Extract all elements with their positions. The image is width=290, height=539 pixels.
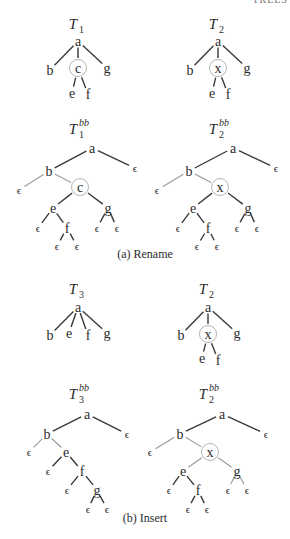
tree-edge [60, 234, 64, 241]
tree-edge [53, 417, 81, 431]
tree-node-c: c [77, 180, 83, 195]
tree-edge [198, 193, 212, 204]
figure-section-insert: T3abefgT2abxgefT3bbaϵbϵeϵfϵgϵϵT2bbaϵbϵxe… [27, 281, 269, 525]
tree-title: T [209, 16, 219, 32]
tree-node-b: b [47, 328, 54, 343]
epsilon-leaf-node: ϵ [264, 428, 269, 440]
tree-edge [53, 457, 62, 467]
tree-node-e: e [63, 445, 69, 460]
tree-edge [42, 213, 49, 223]
tree-edge [213, 311, 232, 328]
tree-node-g: g [234, 326, 241, 341]
tree-title-superscript: bb [219, 117, 229, 128]
tree-node-x: x [215, 61, 222, 76]
epsilon-leaf-node: ϵ [65, 484, 70, 496]
tree-edge [71, 476, 78, 485]
epsilon-leaf-node: ϵ [46, 465, 51, 477]
tree-node-a: a [89, 141, 96, 156]
epsilon-leaf-node: ϵ [186, 503, 191, 515]
tree-node-e: e [190, 201, 196, 216]
tree-edge [58, 193, 72, 204]
tree-node-a: a [215, 34, 222, 49]
tree-node-f: f [86, 87, 91, 102]
tree-edge [201, 496, 204, 503]
tree-title: T [69, 16, 79, 32]
tree-edge [186, 437, 202, 447]
tree-edge [197, 213, 204, 223]
tree-edge [156, 437, 175, 448]
tree-node-g: g [244, 61, 251, 76]
tree-node-f: f [216, 353, 221, 368]
tree-node-x: x [217, 180, 224, 195]
tree-edge [228, 193, 243, 204]
tree-edge [223, 45, 242, 63]
epsilon-leaf-node: ϵ [205, 503, 210, 515]
tree-edge [86, 476, 93, 485]
tree-edge [211, 234, 214, 240]
tree-edge [240, 477, 244, 484]
tree-title: T [199, 281, 209, 297]
tree-title-subscript: 2 [209, 289, 214, 300]
tree-title-subscript: 2 [219, 129, 224, 140]
tree-node-e: e [69, 86, 75, 101]
subfigure-caption: (b) Insert [123, 511, 168, 525]
tree-node-f: f [86, 328, 91, 343]
epsilon-leaf-node: ϵ [226, 484, 231, 496]
tree-edge [100, 496, 104, 503]
epsilon-leaf-node: ϵ [105, 503, 110, 515]
tree-edge [88, 193, 103, 204]
tree-edge [55, 46, 74, 66]
tree-edge [57, 213, 64, 222]
epsilon-leaf-node: ϵ [95, 222, 100, 234]
tree-node-f: f [196, 483, 201, 498]
tree-node-a: a [230, 141, 237, 156]
tree-t2i: T2abxgef [178, 281, 241, 368]
tree-edge [98, 151, 129, 166]
tree-node-g: g [105, 201, 112, 216]
epsilon-leaf-node: ϵ [133, 162, 138, 174]
tree-node-b: b [44, 427, 51, 442]
tree-edge [228, 417, 260, 432]
epsilon-leaf-node: ϵ [255, 222, 260, 234]
tree-node-a: a [75, 34, 82, 49]
epsilon-leaf-node: ϵ [36, 222, 41, 234]
tree-edge [187, 476, 194, 485]
epsilon-leaf-node: ϵ [86, 503, 91, 515]
tree-t2bb: T2bbaϵbϵxegϵfϵϵϵϵ [155, 117, 279, 252]
tree-node-f: f [65, 221, 70, 236]
tree-edge [182, 213, 189, 223]
tree-edge [25, 175, 44, 187]
tree-node-f: f [206, 221, 211, 236]
tree-node-a: a [219, 407, 226, 422]
epsilon-leaf-node: ϵ [215, 240, 220, 252]
tree-t1bb: T1bbaϵbϵcegϵfϵϵϵϵ [17, 117, 138, 252]
epsilon-leaf-node: ϵ [155, 184, 160, 196]
tree-title: T [69, 386, 79, 402]
tree-edge [55, 151, 87, 168]
tree-edge [93, 417, 121, 431]
epsilon-leaf-node: ϵ [27, 446, 32, 458]
tree-edge [191, 496, 195, 503]
tree-t2bb_i: T2bbaϵbϵxegϵfϵϵϵϵ [148, 382, 269, 515]
tree-node-e: e [199, 351, 205, 366]
tree-node-g: g [245, 201, 252, 216]
tree-node-a: a [75, 300, 82, 315]
tree-node-b: b [186, 164, 193, 179]
tree-edge [239, 151, 270, 166]
tree-node-f: f [226, 87, 231, 102]
subfigure-caption: (a) Rename [117, 247, 173, 261]
tree-node-b: b [177, 427, 184, 442]
epsilon-leaf-node: ϵ [245, 484, 250, 496]
tree-node-g: g [234, 464, 241, 479]
tree-node-e: e [209, 86, 215, 101]
epsilon-leaf-node: ϵ [17, 184, 22, 196]
tree-node-e: e [50, 201, 56, 216]
tree-node-e: e [66, 326, 72, 341]
tree-t3bb: T3bbaϵbϵeϵfϵgϵϵ [27, 382, 130, 515]
tree-edge [186, 417, 216, 431]
tree-node-b: b [46, 164, 53, 179]
tree-edge [163, 174, 184, 186]
epsilon-leaf-node: ϵ [115, 222, 120, 234]
epsilon-leaf-node: ϵ [75, 240, 80, 252]
tree-edge [83, 45, 102, 63]
